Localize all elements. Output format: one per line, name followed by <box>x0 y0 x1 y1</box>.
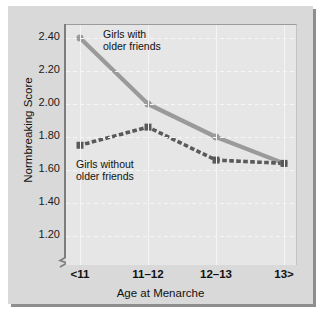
grid-line-vertical <box>216 25 217 265</box>
chart-plate: 2.40 2.20 2.00 1.80 1.60 1.40 1.20 Normb… <box>8 6 313 304</box>
y-tick-label: 2.20 <box>12 64 60 75</box>
grid-line-horizontal <box>66 38 296 39</box>
x-axis-title: Age at Menarche <box>8 287 313 299</box>
y-tick-label: 2.40 <box>12 31 60 42</box>
grid-line-horizontal <box>66 236 296 237</box>
annotation-girls-without-older-friends: Girls without older friends <box>76 158 134 182</box>
y-axis-title: Normbreaking Score <box>22 50 34 210</box>
grid-line-horizontal <box>66 203 296 204</box>
y-tick-label: 1.40 <box>12 196 60 207</box>
grid-line-vertical <box>80 25 81 265</box>
y-tick-label: 1.20 <box>12 229 60 240</box>
figure: 2.40 2.20 2.00 1.80 1.60 1.40 1.20 Normb… <box>0 0 325 318</box>
line-girls-with-older-friends <box>80 38 284 163</box>
y-tick-label: 1.60 <box>12 163 60 174</box>
chart-plate-inner: 2.40 2.20 2.00 1.80 1.60 1.40 1.20 Normb… <box>8 6 313 304</box>
grid-line-horizontal <box>66 137 296 138</box>
y-tick-label: 2.00 <box>12 97 60 108</box>
markers-girls-with-older-friends <box>76 34 287 167</box>
plot-area <box>66 24 297 265</box>
grid-line-vertical <box>148 25 149 265</box>
grid-line-vertical <box>284 25 285 265</box>
annotation-girls-with-older-friends: Girls with older friends <box>103 28 161 52</box>
x-tick-label: 13> <box>244 268 324 280</box>
series-layer <box>66 25 296 265</box>
y-tick-label: 1.80 <box>12 130 60 141</box>
y-axis-ticks: 2.40 2.20 2.00 1.80 1.60 1.40 1.20 <box>8 6 60 304</box>
grid-line-horizontal <box>66 71 296 72</box>
grid-line-horizontal <box>66 104 296 105</box>
